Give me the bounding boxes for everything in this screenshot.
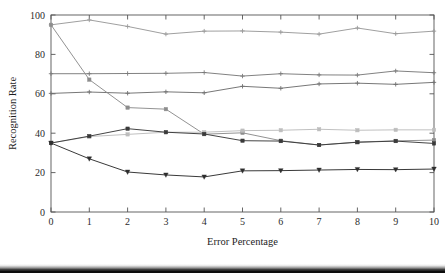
data-point-marker xyxy=(164,107,167,110)
x-tick-label: 6 xyxy=(278,216,283,227)
data-point-marker xyxy=(49,23,52,26)
x-tick-label: 3 xyxy=(163,216,168,227)
data-point-marker xyxy=(164,131,167,134)
data-point-marker xyxy=(241,139,244,142)
chart-figure: 012345678910020406080100Error Percentage… xyxy=(0,0,445,273)
x-tick-label: 8 xyxy=(355,216,360,227)
data-point-marker xyxy=(317,128,320,131)
x-tick-label: 7 xyxy=(317,216,322,227)
x-tick-label: 2 xyxy=(125,216,130,227)
data-point-marker xyxy=(126,127,129,130)
y-axis-title: Recognition Rate xyxy=(7,77,18,151)
data-point-marker xyxy=(432,128,435,131)
x-tick-label: 5 xyxy=(240,216,245,227)
y-tick-label: 100 xyxy=(30,10,45,21)
data-point-marker xyxy=(88,134,91,137)
data-point-marker xyxy=(394,128,397,131)
y-tick-label: 80 xyxy=(35,49,45,60)
data-point-marker xyxy=(356,129,359,132)
x-tick-label: 0 xyxy=(49,216,54,227)
data-point-marker xyxy=(394,139,397,142)
data-series xyxy=(49,80,436,95)
data-point-marker xyxy=(279,139,282,142)
line-chart: 012345678910020406080100Error Percentage… xyxy=(0,0,445,273)
axis-frame xyxy=(51,15,434,212)
data-series xyxy=(49,18,436,37)
x-tick-label: 9 xyxy=(393,216,398,227)
x-tick-label: 4 xyxy=(202,216,207,227)
data-point-marker xyxy=(241,129,244,132)
x-axis-title: Error Percentage xyxy=(207,236,278,247)
data-point-marker xyxy=(88,78,91,81)
data-point-marker xyxy=(126,133,129,136)
plot-frame xyxy=(51,15,434,212)
data-point-marker xyxy=(126,106,129,109)
data-point-marker xyxy=(203,132,206,135)
data-series xyxy=(49,141,437,179)
data-point-marker xyxy=(356,141,359,144)
data-series xyxy=(49,69,436,79)
y-axis: 020406080100 xyxy=(30,10,434,218)
data-point-marker xyxy=(432,138,435,141)
data-point-marker xyxy=(317,143,320,146)
data-point-marker xyxy=(279,129,282,132)
data-point-marker xyxy=(432,142,435,145)
x-tick-label: 10 xyxy=(429,216,439,227)
y-tick-label: 20 xyxy=(35,167,45,178)
x-tick-label: 1 xyxy=(87,216,92,227)
x-axis: 012345678910 xyxy=(49,15,440,227)
y-tick-label: 0 xyxy=(40,207,45,218)
y-tick-label: 40 xyxy=(35,128,45,139)
y-tick-label: 60 xyxy=(35,88,45,99)
